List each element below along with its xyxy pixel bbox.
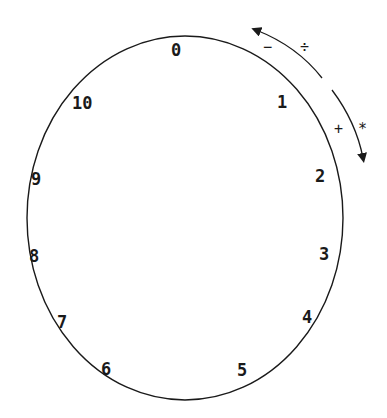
clock-number-9: 9	[31, 169, 41, 189]
clock-number-0: 0	[171, 40, 181, 60]
clock-number-3: 3	[319, 244, 329, 264]
clock-number-5: 5	[237, 360, 247, 380]
clock-number-7: 7	[57, 312, 67, 332]
plus-operator: +	[334, 120, 343, 138]
divide-operator: ÷	[300, 38, 309, 56]
clock-number-4: 4	[302, 307, 312, 327]
clock-number-8: 8	[29, 246, 39, 266]
clock-numbers: 0 1 2 3 4 5 6 7 8 9 10	[29, 40, 329, 380]
clock-number-6: 6	[101, 359, 111, 379]
minus-operator: −	[263, 38, 272, 56]
clock-number-2: 2	[315, 166, 325, 186]
clock-number-1: 1	[277, 92, 287, 112]
clock-face	[27, 36, 343, 400]
modular-clock-diagram: 0 1 2 3 4 5 6 7 8 9 10 − ÷ + *	[0, 0, 387, 418]
multiply-operator: *	[358, 120, 367, 138]
clock-number-10: 10	[72, 93, 92, 113]
